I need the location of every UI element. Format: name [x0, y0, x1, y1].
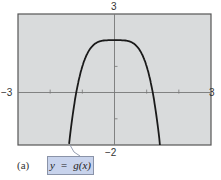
y-min-label: −2 [105, 148, 116, 158]
y-max-label: 3 [111, 2, 117, 12]
x-max-label: 3 [209, 88, 215, 98]
callout-pointer [70, 145, 80, 156]
graph-figure: −3 3 3 −2 (a) y = g(x) [0, 0, 221, 180]
panel-label: (a) [17, 159, 29, 171]
x-min-label: −3 [1, 88, 12, 98]
equation-label-box: y = g(x) [47, 156, 94, 175]
